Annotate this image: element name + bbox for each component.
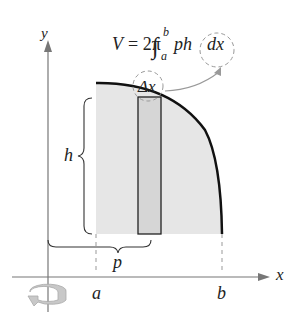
- x-axis-arrow-icon: [258, 273, 270, 281]
- integral-sign: ∫: [150, 33, 160, 61]
- integrand: ph: [172, 34, 192, 54]
- formula-lhs: V: [112, 34, 125, 54]
- x-axis-label: x: [275, 265, 284, 284]
- p-label: p: [111, 252, 122, 272]
- a-label: a: [92, 283, 101, 303]
- differential: dx: [207, 34, 224, 54]
- h-label: h: [64, 145, 73, 165]
- integral-upper-limit: b: [163, 25, 169, 39]
- connector-arrow: [165, 72, 219, 91]
- delta-x-label: Δx: [137, 77, 156, 96]
- rotation-arrow-icon: [28, 284, 66, 306]
- shell-method-diagram: V = 2π ∫ b a ph dx Δx h p a b x y: [0, 0, 306, 326]
- b-label: b: [217, 283, 226, 303]
- y-axis-label: y: [39, 25, 48, 41]
- integral-lower-limit: a: [161, 49, 167, 63]
- representative-rectangle: [138, 97, 161, 234]
- y-axis-arrow-icon: [44, 40, 52, 52]
- h-brace: [78, 98, 92, 234]
- p-brace: [48, 240, 151, 253]
